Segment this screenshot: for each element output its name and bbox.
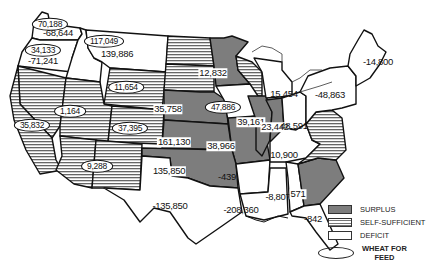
value-georgia: 571 (290, 189, 307, 199)
map-legend: SURPLUS SELF-SUFFICIENT DEFICIT WHEAT FO… (328, 203, 425, 263)
legend-label-deficit: DEFICIT (360, 231, 389, 240)
value-oregon: -71,241 (28, 56, 58, 66)
value-ohio: 48,591 (280, 121, 307, 131)
wheat-oval-iowa: 47,886 (205, 101, 241, 114)
value-minnesota: 12,832 (198, 68, 227, 78)
value-oklahoma: 135,850 (152, 166, 186, 176)
legend-label-surplus: SURPLUS (360, 205, 395, 214)
wheat-oval-wyoming: 11,654 (108, 81, 144, 94)
wheat-oval-arizona: 9,288 (81, 160, 113, 173)
legend-label-wheat-1: WHEAT FOR (362, 244, 407, 253)
value-nebraska: 35,758 (153, 104, 182, 114)
value-missouri: 38,966 (206, 141, 235, 151)
self-sufficient-swatch (328, 218, 352, 227)
wheat-oval-california: 35,832 (14, 119, 50, 132)
surplus-swatch (328, 205, 352, 214)
value-alabama: -8,807 (265, 192, 290, 202)
value-florida: -842 (304, 214, 322, 224)
wheat-oval-montana: 117,049 (84, 35, 124, 48)
legend-item-deficit: DEFICIT (328, 229, 425, 242)
value-new-england: -14,800 (363, 57, 393, 67)
value-louisiana-mississippi: -208,360 (223, 205, 258, 215)
wheat-oval-nevada: 1,164 (54, 105, 86, 118)
legend-label-self-sufficient: SELF-SUFFICIENT (360, 218, 425, 227)
legend-item-surplus: SURPLUS (328, 203, 425, 216)
value-pennsylvania-newyork: -48,863 (315, 90, 345, 100)
value-arkansas: -439 (218, 172, 236, 182)
legend-label-wheat-2: FEED (362, 253, 407, 262)
legend-item-wheat-for-feed: WHEAT FOR FEED (328, 244, 425, 263)
state-arkansas (236, 160, 270, 194)
value-montana: 139,886 (101, 49, 133, 59)
legend-item-self-sufficient: SELF-SUFFICIENT (328, 216, 425, 229)
oval-swatch-icon (318, 247, 354, 259)
value-washington: -68,644 (43, 28, 73, 38)
value-kentucky-tennessee: 10,900 (270, 150, 297, 160)
deficit-swatch (328, 231, 352, 240)
state-north-dakota (166, 36, 214, 66)
value-kansas: 161,130 (157, 137, 191, 147)
value-texas: -135,850 (152, 201, 187, 211)
wheat-oval-colorado: 37,395 (112, 122, 148, 135)
value-michigan: 15,454 (270, 89, 297, 99)
